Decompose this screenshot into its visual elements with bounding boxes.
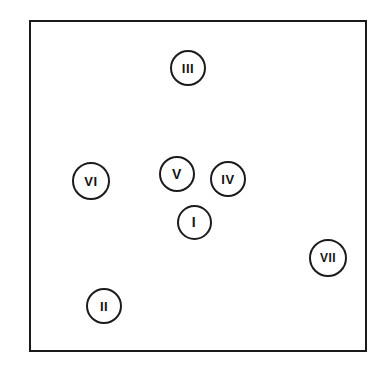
node-marker-vi[interactable]: VI: [72, 162, 110, 200]
node-label-vi: VI: [84, 174, 97, 187]
node-marker-ii[interactable]: II: [86, 288, 122, 324]
node-label-i: I: [192, 215, 196, 229]
node-label-ii: II: [100, 299, 108, 312]
node-marker-iii[interactable]: III: [170, 50, 206, 86]
node-label-vii: VII: [320, 252, 336, 264]
node-label-iii: III: [182, 61, 194, 74]
diagram-canvas: III VI V IV I VII II: [0, 0, 384, 373]
node-marker-iv[interactable]: IV: [210, 161, 246, 197]
node-marker-vii[interactable]: VII: [309, 239, 347, 277]
node-label-iv: IV: [221, 172, 234, 185]
node-marker-v[interactable]: V: [159, 156, 195, 192]
node-marker-i[interactable]: I: [177, 205, 212, 240]
node-label-v: V: [172, 167, 182, 181]
